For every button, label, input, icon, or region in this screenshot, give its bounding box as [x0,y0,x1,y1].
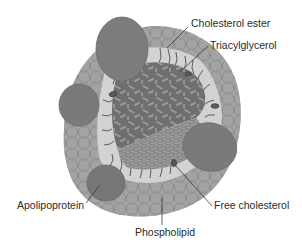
label-triacylglycerol: Triacylglycerol [210,39,277,51]
label-free-cholesterol: Free cholesterol [214,199,289,211]
label-phospholipid: Phospholipid [135,226,195,238]
lipoprotein-diagram [0,0,302,250]
label-cholesterol-ester: Cholesterol ester [191,17,270,29]
label-apolipoprotein: Apolipoprotein [17,199,84,211]
apolipoprotein-top [96,17,148,81]
apolipoprotein-left [59,84,99,126]
apolipoprotein-bottom [87,165,125,201]
